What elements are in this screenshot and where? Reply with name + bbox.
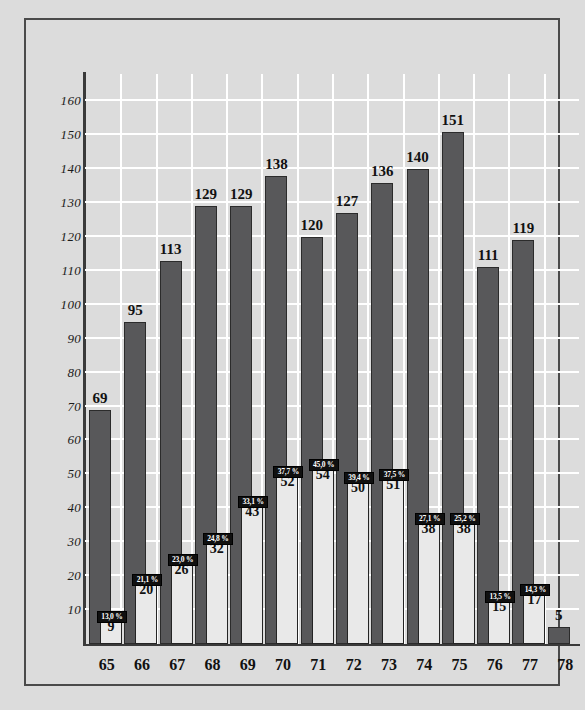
- y-tick-label: 130: [35, 195, 81, 211]
- y-tick-label: 10: [35, 602, 81, 618]
- bar-total-value-label: 129: [186, 186, 226, 203]
- percentage-badge: 14,3 %: [520, 584, 550, 596]
- bar-total[interactable]: [548, 627, 570, 644]
- x-tick-label: 76: [475, 656, 515, 674]
- percentage-badge: 39,4 %: [344, 472, 374, 484]
- y-tick-label: 120: [35, 229, 81, 245]
- x-tick-label: 73: [369, 656, 409, 674]
- y-tick-label: 90: [35, 331, 81, 347]
- bar-total-value-label: 129: [221, 186, 261, 203]
- x-tick-label: 68: [193, 656, 233, 674]
- x-tick-label: 78: [545, 656, 585, 674]
- percentage-badge: 24,8 %: [203, 533, 233, 545]
- y-tick-label: 150: [35, 127, 81, 143]
- bar-subset[interactable]: [347, 474, 369, 644]
- bar-total-value-label: 5: [539, 607, 579, 624]
- percentage-badge: 13,5 %: [485, 591, 515, 603]
- bar-total-value-label: 127: [327, 193, 367, 210]
- x-tick-label: 69: [228, 656, 268, 674]
- y-tick-label: 140: [35, 161, 81, 177]
- y-tick-label: 40: [35, 500, 81, 516]
- bar-total[interactable]: [89, 410, 111, 644]
- y-tick-label: 60: [35, 432, 81, 448]
- x-tick-label: 72: [334, 656, 374, 674]
- percentage-badge: 23,0 %: [168, 554, 198, 566]
- plot-area: 69913,0 %952021,1 %1132623,0 %1293224,8 …: [85, 74, 579, 644]
- bar-total-value-label: 136: [362, 163, 402, 180]
- y-axis-tick-labels: 102030405060708090100110120130140150160: [29, 74, 81, 644]
- bar-total[interactable]: [477, 267, 499, 644]
- y-tick-label: 160: [35, 93, 81, 109]
- percentage-badge: 37,5 %: [379, 469, 409, 481]
- bar-subset[interactable]: [276, 468, 298, 644]
- bar-group[interactable]: 69913,0 %: [89, 74, 124, 644]
- y-tick-label: 100: [35, 297, 81, 313]
- bar-total-value-label: 113: [151, 241, 191, 258]
- x-tick-label: 71: [298, 656, 338, 674]
- y-tick-label: 30: [35, 534, 81, 550]
- y-tick-label: 70: [35, 399, 81, 415]
- x-axis-tick-labels: 6566676869707172737475767778: [85, 656, 579, 690]
- bar-group[interactable]: 1111513,5 %: [477, 74, 512, 644]
- x-tick-label: 74: [404, 656, 444, 674]
- percentage-badge: 21,1 %: [132, 574, 162, 586]
- y-tick-label: 50: [35, 466, 81, 482]
- x-tick-label: 67: [157, 656, 197, 674]
- y-tick-label: 80: [35, 365, 81, 381]
- bar-group[interactable]: 1293224,8 %: [195, 74, 230, 644]
- bar-total-value-label: 119: [503, 220, 543, 237]
- percentage-badge: 45,0 %: [309, 459, 339, 471]
- bar-group[interactable]: 5: [548, 74, 583, 644]
- bar-group[interactable]: 1191714,3 %: [512, 74, 547, 644]
- x-tick-label: 66: [122, 656, 162, 674]
- x-tick-label: 70: [263, 656, 303, 674]
- x-tick-label: 77: [510, 656, 550, 674]
- bar-subset[interactable]: [382, 471, 404, 644]
- bar-total-value-label: 120: [292, 217, 332, 234]
- bar-total-value-label: 95: [115, 302, 155, 319]
- bar-group[interactable]: 1132623,0 %: [160, 74, 195, 644]
- bar-subset[interactable]: [312, 461, 334, 644]
- bar-total-value-label: 151: [433, 112, 473, 129]
- y-tick-label: 110: [35, 263, 81, 279]
- bar-group[interactable]: 1205445,0 %: [301, 74, 336, 644]
- x-axis-line: [83, 644, 580, 646]
- bar-total-value-label: 140: [398, 149, 438, 166]
- percentage-badge: 33,1 %: [238, 496, 268, 508]
- bar-group[interactable]: 952021,1 %: [124, 74, 159, 644]
- bar-group[interactable]: 1385237,7 %: [265, 74, 300, 644]
- x-tick-label: 65: [87, 656, 127, 674]
- bar-total-value-label: 111: [468, 247, 508, 264]
- bar-group[interactable]: 1513825,2 %: [442, 74, 477, 644]
- percentage-badge: 37,7 %: [273, 466, 303, 478]
- bar-group[interactable]: 1403827,1 %: [407, 74, 442, 644]
- x-tick-label: 75: [440, 656, 480, 674]
- percentage-badge: 25,2 %: [450, 513, 480, 525]
- bar-total-value-label: 69: [80, 390, 120, 407]
- chart-frame: 102030405060708090100110120130140150160 …: [24, 18, 560, 686]
- bar-total-value-label: 138: [256, 156, 296, 173]
- bar-group[interactable]: 1275039,4 %: [336, 74, 371, 644]
- y-tick-label: 20: [35, 568, 81, 584]
- percentage-badge: 27,1 %: [415, 513, 445, 525]
- percentage-badge: 13,0 %: [97, 611, 127, 623]
